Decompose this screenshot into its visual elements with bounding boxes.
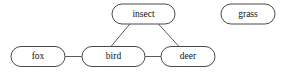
node-insect[interactable]: insect xyxy=(112,4,175,24)
edge-insect-bird xyxy=(111,23,131,47)
node-bird-label: bird xyxy=(106,51,122,61)
graph-canvas: insect grass fox bird deer xyxy=(0,0,282,72)
node-fox-label: fox xyxy=(32,51,45,61)
node-deer-label: deer xyxy=(180,51,197,61)
node-grass[interactable]: grass xyxy=(221,4,275,24)
node-bird[interactable]: bird xyxy=(82,47,145,67)
node-grass-label: grass xyxy=(238,9,258,19)
node-layer: insect grass fox bird deer xyxy=(11,4,275,67)
node-fox[interactable]: fox xyxy=(11,47,65,67)
node-insect-label: insect xyxy=(132,9,155,19)
node-deer[interactable]: deer xyxy=(161,47,215,67)
food-web-diagram: insect grass fox bird deer xyxy=(0,0,282,72)
edge-insect-deer xyxy=(157,23,179,47)
